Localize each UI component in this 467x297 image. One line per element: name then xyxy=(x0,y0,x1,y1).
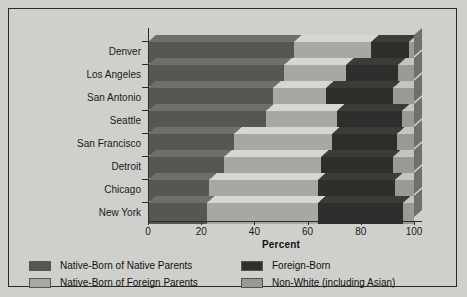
bar-segment xyxy=(318,180,395,201)
bar-segment-top xyxy=(294,35,379,42)
bar-segment xyxy=(148,157,224,178)
y-axis-tick xyxy=(142,41,149,42)
bar-segment xyxy=(148,88,273,109)
y-axis-label: Los Angeles xyxy=(21,69,141,80)
plot-area xyxy=(148,35,414,221)
bar-segment xyxy=(371,42,408,63)
bar-segment xyxy=(397,134,414,155)
x-axis-tick-label: 60 xyxy=(288,226,328,237)
y-axis-label: Seattle xyxy=(21,115,141,126)
bar-segment xyxy=(209,180,318,201)
legend-item[interactable]: Foreign-Born xyxy=(241,258,330,273)
legend-swatch xyxy=(29,261,51,271)
bar-row xyxy=(148,111,414,134)
y-axis-tick xyxy=(142,202,149,203)
bar-segment xyxy=(234,134,331,155)
bar-segment xyxy=(148,65,284,86)
bar-segment xyxy=(332,134,397,155)
chart-frame: DenverLos AngelesSan AntonioSeattleSan F… xyxy=(8,8,457,287)
legend-label: Native-Born of Foreign Parents xyxy=(60,277,198,288)
bar-segment xyxy=(337,111,402,132)
bar-segment xyxy=(148,111,266,132)
y-axis-line xyxy=(148,28,149,222)
bar-row xyxy=(148,88,414,111)
x-axis-tick xyxy=(361,221,362,225)
x-axis-tick-label: 0 xyxy=(128,226,168,237)
bar-segment xyxy=(346,65,398,86)
legend-swatch xyxy=(29,278,51,288)
bar-row xyxy=(148,65,414,88)
x-axis-tick xyxy=(148,221,149,225)
chart-legend: Native-Born of Native ParentsNative-Born… xyxy=(29,258,459,292)
bar-segment xyxy=(294,42,371,63)
bar-segment-top xyxy=(148,35,302,42)
bar-segment xyxy=(402,111,414,132)
y-axis-tick xyxy=(142,87,149,88)
y-axis-label: Detroit xyxy=(21,161,141,172)
legend-swatch xyxy=(241,278,263,288)
x-axis-title: Percent xyxy=(148,239,414,250)
y-axis-tick xyxy=(142,156,149,157)
legend-item[interactable]: Native-Born of Foreign Parents xyxy=(29,275,198,290)
bar-row xyxy=(148,157,414,180)
bar-segment xyxy=(284,65,347,86)
y-axis-label: Chicago xyxy=(21,184,141,195)
legend-item[interactable]: Non-White (including Asian) xyxy=(241,275,395,290)
bar-segment xyxy=(326,88,393,109)
x-axis-tick-label: 40 xyxy=(234,226,274,237)
x-axis-tick-label: 20 xyxy=(181,226,221,237)
bar-row xyxy=(148,180,414,203)
bar-side-face xyxy=(414,189,422,217)
x-axis-tick-label: 100 xyxy=(394,226,434,237)
bar-segment xyxy=(321,157,393,178)
x-axis-tick xyxy=(201,221,202,225)
x-axis-tick xyxy=(414,221,415,225)
y-axis-tick xyxy=(142,179,149,180)
bar-segment xyxy=(393,88,414,109)
bar-top-face xyxy=(148,35,156,42)
y-axis-labels: DenverLos AngelesSan AntonioSeattleSan F… xyxy=(17,35,141,225)
bar-segment-top xyxy=(371,35,416,42)
bar-segment xyxy=(148,42,294,63)
legend-swatch xyxy=(241,261,263,271)
chart-figure: DenverLos AngelesSan AntonioSeattleSan F… xyxy=(0,0,467,297)
y-axis-label: New York xyxy=(21,207,141,218)
y-axis-tick xyxy=(142,110,149,111)
bar-segment xyxy=(266,111,336,132)
bar-segment xyxy=(148,180,209,201)
legend-label: Foreign-Born xyxy=(272,260,330,271)
x-axis-tick-label: 80 xyxy=(341,226,381,237)
x-axis-tick xyxy=(254,221,255,225)
bar-segment xyxy=(398,65,414,86)
y-axis-label: Denver xyxy=(21,46,141,57)
y-axis-tick xyxy=(142,64,149,65)
legend-label: Native-Born of Native Parents xyxy=(60,260,192,271)
x-axis-tick xyxy=(308,221,309,225)
bar-segment xyxy=(148,134,234,155)
y-axis-label: San Francisco xyxy=(21,138,141,149)
y-axis-label: San Antonio xyxy=(21,92,141,103)
legend-label: Non-White (including Asian) xyxy=(272,277,395,288)
bar-segment xyxy=(224,157,321,178)
y-axis-tick xyxy=(142,133,149,134)
bar-row xyxy=(148,203,414,226)
bar-segment xyxy=(393,157,414,178)
bar-segment xyxy=(273,88,326,109)
bar-row xyxy=(148,42,414,65)
bar-segment xyxy=(395,180,414,201)
legend-item[interactable]: Native-Born of Native Parents xyxy=(29,258,192,273)
bar-row xyxy=(148,134,414,157)
x-axis-line xyxy=(148,221,422,222)
